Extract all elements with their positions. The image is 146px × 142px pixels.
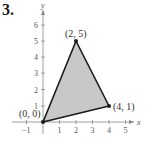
vertex-point [74, 39, 78, 43]
vertex-label-top: (2, 5) [65, 28, 87, 40]
x-axis-label: x [136, 118, 141, 127]
vertex-label-right: (4, 1) [113, 101, 135, 113]
svg-text:6: 6 [34, 21, 38, 30]
y-axis-label: y [40, 1, 45, 10]
svg-text:3: 3 [91, 126, 95, 135]
triangle-region [43, 41, 109, 122]
y-tick-labels: 1 2 3 4 5 6 [34, 21, 38, 111]
vertex-label-origin: (0, 0) [19, 108, 41, 120]
svg-text:4: 4 [107, 126, 111, 135]
svg-text:−1: −1 [22, 126, 31, 135]
svg-text:5: 5 [34, 37, 38, 46]
x-tick-labels: −1 1 2 3 4 5 [22, 126, 128, 135]
triangle-plot: x y −1 1 2 3 4 5 1 2 3 4 5 6 [0, 0, 146, 142]
y-axis: y [40, 1, 45, 134]
svg-text:2: 2 [74, 126, 78, 135]
svg-text:4: 4 [34, 53, 38, 62]
svg-text:5: 5 [124, 126, 128, 135]
svg-text:2: 2 [34, 86, 38, 95]
vertex-point [107, 104, 111, 108]
vertex-point [41, 120, 45, 124]
svg-text:3: 3 [34, 69, 38, 78]
svg-text:1: 1 [58, 126, 62, 135]
